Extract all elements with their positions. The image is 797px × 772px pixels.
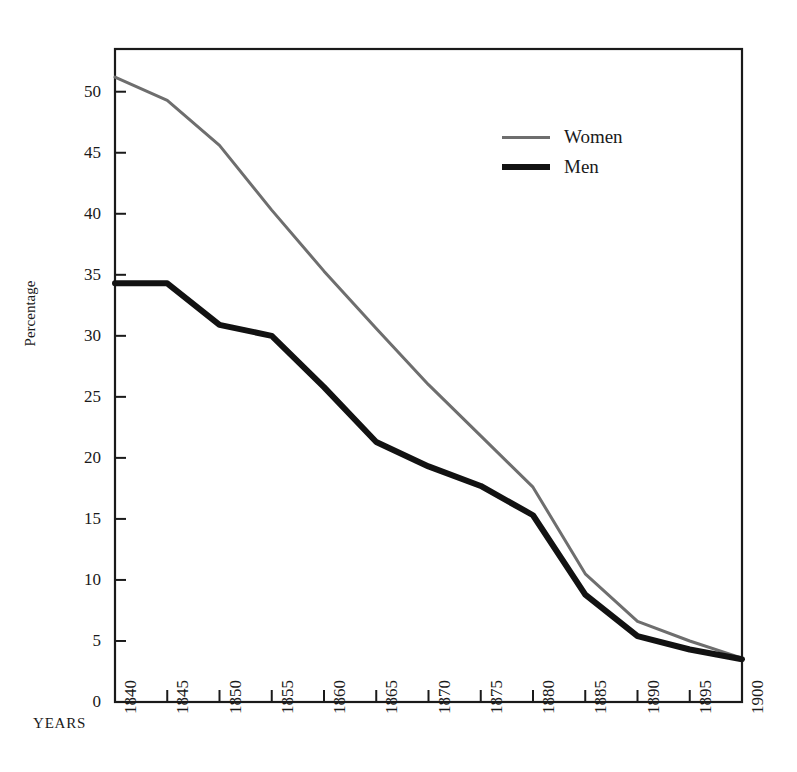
legend-label-women: Women [564, 126, 623, 148]
legend-item-men: Men [502, 152, 623, 182]
axes [115, 49, 742, 702]
legend-item-women: Women [502, 122, 623, 152]
legend-swatch-men-icon [502, 164, 550, 170]
chart-figure: Percentage YEARS 05101520253035404550 18… [0, 0, 797, 772]
legend-label-men: Men [564, 156, 599, 178]
legend: Women Men [502, 122, 623, 182]
plot-area [0, 0, 797, 772]
plot-frame [115, 49, 742, 702]
legend-swatch-women-icon [502, 136, 550, 139]
series-line-men [115, 283, 742, 659]
data-series [115, 77, 742, 659]
series-line-women [115, 77, 742, 658]
